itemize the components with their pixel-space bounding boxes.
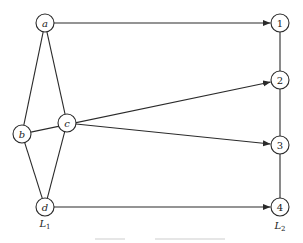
node-b: b [13,125,31,143]
nodes: abcd1234 [13,14,289,216]
arrow-edge-c-3 [76,124,271,144]
edge-b-d [25,143,43,199]
node-label: c [64,118,70,129]
edge-c-d [47,132,64,199]
node-4: 4 [271,198,289,216]
node-label: 1 [277,18,283,29]
edge-a-c [47,32,65,114]
node-2: 2 [271,71,289,89]
diagram-canvas: abcd1234 L1 L2 [0,0,303,243]
node-label: d [42,202,48,213]
node-label: b [19,129,25,140]
node-label: 2 [277,75,283,86]
caption-fragment [95,238,125,240]
edge-a-b [24,32,43,125]
node-a: a [36,14,54,32]
node-1: 1 [271,14,289,32]
node-label: 3 [277,140,283,151]
node-label: 4 [277,202,283,213]
layer-label-l1: L1 [38,218,50,231]
node-3: 3 [271,136,289,154]
node-c: c [58,114,76,132]
layer-label-l2: L2 [273,220,285,233]
node-label: a [42,18,48,29]
caption-fragment [155,238,225,240]
node-d: d [36,198,54,216]
